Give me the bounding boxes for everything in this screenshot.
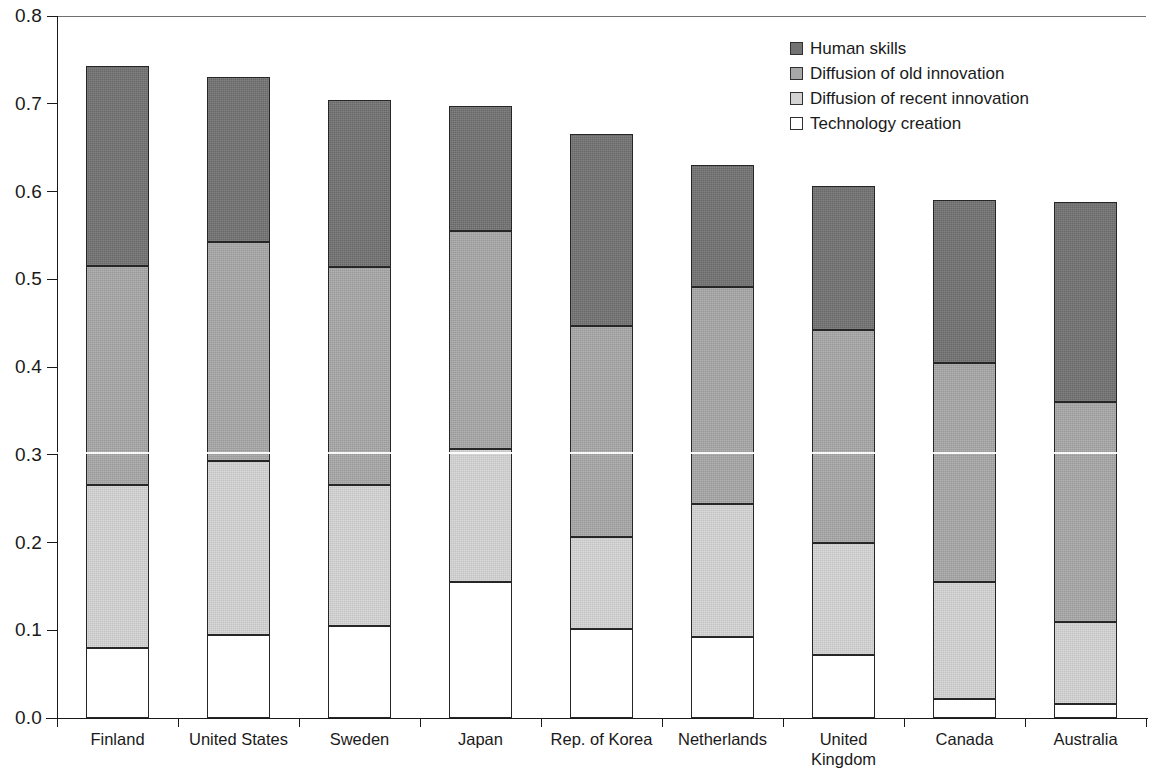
legend-label: Technology creation [810,114,961,134]
bar-segment-old[interactable] [207,242,270,461]
bar-netherlands[interactable] [691,16,754,718]
x-tick [904,718,905,727]
y-tick-label-0.6: 0.6 [0,181,42,203]
bar-segment-tech[interactable] [207,635,270,718]
x-tick [662,718,663,727]
bar-segment-human[interactable] [328,100,391,267]
x-label-canada: Canada [904,729,1025,749]
y-tick-label-0.3: 0.3 [0,444,42,466]
bar-segment-old[interactable] [1054,402,1117,622]
y-tick-label-0.8: 0.8 [0,5,42,27]
y-tick-label-0.2: 0.2 [0,532,42,554]
x-axis-line [46,718,1148,719]
legend-label: Human skills [810,39,906,59]
bar-segment-human[interactable] [691,165,754,287]
y-tick-0.7 [47,103,57,104]
x-tick [178,718,179,727]
y-tick-label-0.4: 0.4 [0,356,42,378]
bar-united-states[interactable] [207,16,270,718]
bar-segment-tech[interactable] [933,699,996,718]
x-tick [1025,718,1026,727]
legend-label: Diffusion of recent innovation [810,89,1029,109]
bar-segment-human[interactable] [1054,202,1117,402]
bar-segment-human[interactable] [570,134,633,326]
bar-segment-recent[interactable] [449,449,512,582]
bar-segment-human[interactable] [812,186,875,330]
bar-segment-old[interactable] [570,326,633,537]
x-label-united-states: United States [178,729,299,749]
bar-segment-recent[interactable] [207,461,270,635]
x-tick [541,718,542,727]
x-label-japan: Japan [420,729,541,749]
x-label-netherlands: Netherlands [662,729,783,749]
y-tick-0.8 [47,16,57,17]
bar-segment-tech[interactable] [812,655,875,718]
legend-swatch-icon-tech [790,117,803,130]
y-tick-label-0.1: 0.1 [0,619,42,641]
chart-legend: Human skillsDiffusion of old innovationD… [790,36,1029,136]
y-tick-0.2 [47,542,57,543]
x-label-finland: Finland [57,729,178,749]
y-tick-label-0.7: 0.7 [0,93,42,115]
x-label-sweden: Sweden [299,729,420,749]
bar-sweden[interactable] [328,16,391,718]
legend-swatch-icon-old [790,67,803,80]
y-tick-0.3 [47,454,57,455]
bar-segment-tech[interactable] [449,582,512,718]
bar-segment-old[interactable] [812,330,875,543]
x-label-united-kingdom: United Kingdom [783,729,904,769]
bar-segment-recent[interactable] [570,537,633,629]
legend-item-tech[interactable]: Technology creation [790,111,1029,136]
bar-segment-tech[interactable] [1054,704,1117,718]
bar-japan[interactable] [449,16,512,718]
bar-rep-of-korea[interactable] [570,16,633,718]
bar-segment-recent[interactable] [812,543,875,654]
x-tick [299,718,300,727]
x-tick [783,718,784,727]
legend-item-old[interactable]: Diffusion of old innovation [790,61,1029,86]
bar-segment-old[interactable] [328,267,391,485]
bar-segment-tech[interactable] [86,648,149,718]
y-tick-0.0 [47,718,57,719]
bar-segment-human[interactable] [933,200,996,362]
y-tick-0.1 [47,630,57,631]
bar-segment-human[interactable] [86,66,149,266]
legend-item-recent[interactable]: Diffusion of recent innovation [790,86,1029,111]
bar-australia[interactable] [1054,16,1117,718]
legend-swatch-icon-human [790,42,803,55]
bar-segment-old[interactable] [691,287,754,504]
y-tick-0.6 [47,191,57,192]
bar-segment-recent[interactable] [86,485,149,647]
bar-segment-human[interactable] [449,106,512,231]
legend-swatch-icon-recent [790,92,803,105]
x-label-australia: Australia [1025,729,1146,749]
bar-segment-tech[interactable] [328,626,391,718]
y-tick-label-0.5: 0.5 [0,268,42,290]
y-tick-0.5 [47,279,57,280]
x-tick [420,718,421,727]
x-tick [1146,718,1147,727]
bar-segment-recent[interactable] [933,582,996,699]
bar-segment-tech[interactable] [570,629,633,718]
bar-segment-recent[interactable] [1054,622,1117,704]
bar-segment-tech[interactable] [691,637,754,718]
legend-label: Diffusion of old innovation [810,64,1004,84]
bar-segment-old[interactable] [933,363,996,582]
chart-root: 0.00.10.20.30.40.50.60.70.8 FinlandUnite… [0,0,1154,781]
x-tick [57,718,58,727]
bar-segment-old[interactable] [449,231,512,449]
bar-segment-human[interactable] [207,77,270,242]
bar-segment-recent[interactable] [691,504,754,637]
legend-item-human[interactable]: Human skills [790,36,1029,61]
x-label-rep-of-korea: Rep. of Korea [541,729,662,749]
bar-segment-recent[interactable] [328,485,391,626]
y-tick-0.4 [47,367,57,368]
y-tick-label-0.0: 0.0 [0,707,42,729]
bar-segment-old[interactable] [86,266,149,485]
bar-finland[interactable] [86,16,149,718]
